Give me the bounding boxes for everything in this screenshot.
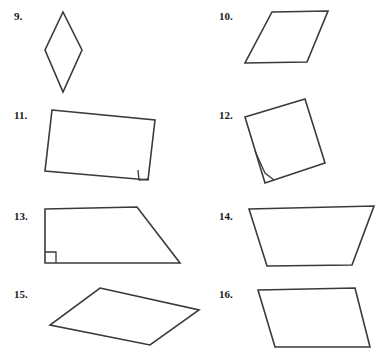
problem-number-label: 9.	[14, 11, 22, 22]
problem-number-label: 14.	[219, 211, 233, 222]
tilted-square-figure	[245, 99, 325, 183]
rhombus-figure	[45, 12, 82, 92]
problem-number-label: 16.	[219, 289, 233, 300]
problem-number-label: 13.	[14, 211, 28, 222]
quadrilateral-with-right-angle-figure	[45, 110, 155, 180]
problem-number-label: 12.	[219, 110, 233, 121]
quadrilateral-figures-layer	[0, 0, 387, 362]
isosceles-trapezoid-figure	[249, 206, 374, 266]
right-trapezoid-figure	[45, 207, 180, 263]
parallelogram-figure	[245, 11, 328, 63]
problem-number-label: 11.	[14, 110, 27, 121]
problem-number-label: 15.	[14, 289, 28, 300]
parallelogram-figure	[50, 288, 199, 345]
parallelogram-figure	[258, 288, 370, 347]
worksheet-canvas: 9.10.11.12.13.14.15.16.	[0, 0, 387, 362]
problem-number-label: 10.	[219, 11, 233, 22]
